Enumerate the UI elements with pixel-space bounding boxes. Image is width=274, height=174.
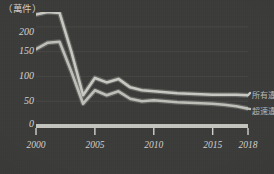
legend-label-series-1: 超速違規 [252,105,274,116]
y-tick-100: 100 [2,70,34,81]
x-tick-2010: 2010 [144,140,163,150]
x-tick-2005: 2005 [85,140,104,150]
chart-svg [36,12,248,126]
series-line-0 [36,12,248,95]
legend-connector-0 [248,93,250,95]
series-halo-0 [36,12,248,95]
y-tick-50: 50 [2,95,34,106]
chart-screenshot: （萬件） 200 150 100 50 0 2000 2005 2010 201… [0,0,274,174]
y-tick-200: 200 [2,26,34,37]
y-tick-150: 150 [2,45,34,56]
x-tick-2015: 2015 [203,140,222,150]
y-tick-0: 0 [2,118,34,129]
x-tick-2018: 2018 [239,140,258,150]
x-tick-2000: 2000 [27,140,46,150]
legend-label-series-0: 所有違規 [252,89,274,100]
plot-area [36,12,248,126]
